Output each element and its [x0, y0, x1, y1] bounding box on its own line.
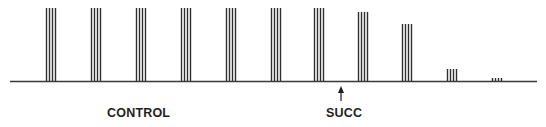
spike-train-plot — [0, 0, 546, 127]
spike-burst — [493, 78, 502, 81]
spike-burst — [182, 8, 191, 81]
spike-burst — [315, 8, 324, 81]
succ-label: SUCC — [326, 107, 362, 120]
spike-train-figure: CONTROL SUCC — [0, 0, 546, 127]
spike-burst — [359, 12, 368, 81]
control-label: CONTROL — [107, 107, 170, 120]
spike-burst — [137, 8, 146, 81]
up-arrow-icon — [338, 86, 344, 101]
spike-burst — [403, 24, 412, 81]
spike-burst — [92, 8, 101, 81]
spike-burst — [47, 8, 56, 81]
spike-burst — [227, 8, 236, 81]
spike-burst — [448, 69, 457, 81]
spike-burst — [272, 8, 281, 81]
